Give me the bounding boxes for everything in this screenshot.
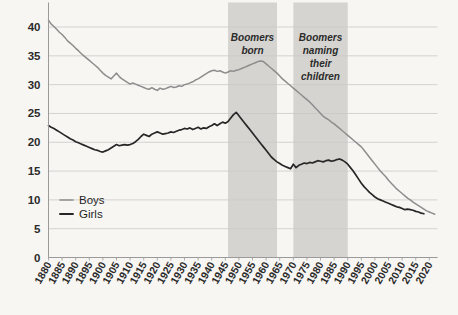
band-label-boomers-naming-their-children-line-3: their bbox=[310, 58, 333, 69]
y-tick-label-5: 5 bbox=[34, 223, 41, 235]
y-tick-label-30: 30 bbox=[28, 79, 41, 91]
line-chart: 0510152025303540 18801885189018951900190… bbox=[0, 0, 458, 315]
y-tick-label-25: 25 bbox=[28, 107, 41, 119]
band-label-boomers-born-line-1: Boomers bbox=[231, 32, 275, 43]
band-label-boomers-naming-their-children-line-2: naming bbox=[303, 45, 339, 56]
legend-label-girls[interactable]: Girls bbox=[79, 208, 103, 220]
y-tick-label-20: 20 bbox=[28, 136, 41, 148]
y-tick-label-40: 40 bbox=[28, 21, 41, 33]
y-tick-label-15: 15 bbox=[28, 165, 41, 177]
y-tick-label-0: 0 bbox=[34, 252, 40, 264]
band-label-boomers-naming-their-children-line-1: Boomers bbox=[299, 32, 343, 43]
y-tick-label-35: 35 bbox=[28, 50, 41, 62]
band-label-boomers-born-line-2: born bbox=[241, 45, 263, 56]
y-tick-label-10: 10 bbox=[28, 194, 41, 206]
chart-container: 0510152025303540 18801885189018951900190… bbox=[0, 0, 458, 315]
band-label-boomers-naming-their-children-line-4: children bbox=[301, 71, 340, 82]
legend-label-boys[interactable]: Boys bbox=[79, 194, 105, 206]
